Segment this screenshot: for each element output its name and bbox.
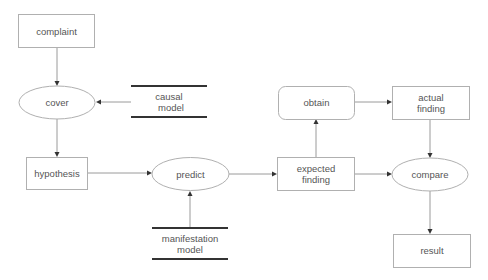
node-hypothesis-label: hypothesis	[34, 168, 80, 179]
arrowhead-icon	[188, 191, 193, 196]
node-actual-finding-label-line2: finding	[417, 103, 445, 114]
arrowhead-icon	[272, 172, 277, 177]
arrowhead-icon	[96, 100, 101, 105]
node-expected-finding-label-line1: expected	[297, 163, 336, 174]
node-complaint: complaint	[19, 15, 95, 48]
edge-predict-to-expected-finding	[229, 172, 277, 177]
node-compare-label: compare	[412, 169, 449, 180]
node-actual-finding-label-line1: actual	[418, 92, 443, 103]
node-manifestation-model-label-line1: manifestation	[162, 233, 219, 244]
node-obtain: obtain	[279, 87, 355, 120]
edge-complaint-to-cover	[55, 48, 60, 86]
edge-cover-to-hypothesis	[55, 119, 60, 157]
arrowhead-icon	[147, 171, 152, 176]
node-cover-label: cover	[45, 97, 68, 108]
node-cover: cover	[19, 86, 95, 119]
arrowhead-icon	[428, 229, 433, 234]
node-causal-model-label-line1: causal	[155, 91, 182, 102]
node-predict-label: predict	[176, 169, 205, 180]
node-manifestation-model-label-line2: model	[177, 244, 203, 255]
node-hypothesis: hypothesis	[27, 158, 88, 190]
node-predict: predict	[152, 158, 229, 191]
arrowhead-icon	[55, 152, 60, 157]
node-expected-finding-label-line2: finding	[302, 174, 330, 185]
diagram-canvas: complaint cover causal model hypothesis …	[0, 0, 488, 280]
node-result: result	[394, 235, 471, 268]
edge-expected-finding-to-compare	[354, 172, 392, 177]
node-causal-model: causal model	[131, 86, 207, 117]
node-compare: compare	[392, 158, 468, 191]
edge-expected-finding-to-obtain	[314, 119, 319, 157]
arrowhead-icon	[387, 100, 392, 105]
node-result-label: result	[420, 245, 444, 256]
edge-manifestation-model-to-predict	[188, 191, 193, 228]
node-obtain-label: obtain	[304, 97, 330, 108]
edge-obtain-to-actual-finding	[354, 100, 392, 105]
node-expected-finding: expected finding	[278, 158, 355, 191]
edge-actual-finding-to-compare	[428, 119, 433, 158]
edge-hypothesis-to-predict	[87, 171, 152, 176]
node-complaint-label: complaint	[36, 26, 77, 37]
node-causal-model-label-line2: model	[158, 102, 184, 113]
arrowhead-icon	[387, 172, 392, 177]
edge-causal-model-to-cover	[96, 100, 131, 105]
arrowhead-icon	[428, 153, 433, 158]
node-actual-finding: actual finding	[393, 87, 470, 120]
arrowhead-icon	[55, 81, 60, 86]
node-manifestation-model: manifestation model	[152, 228, 228, 259]
edge-compare-to-result	[428, 191, 433, 234]
